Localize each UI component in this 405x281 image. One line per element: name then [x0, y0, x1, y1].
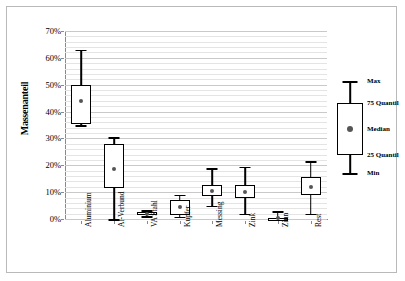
box-plot-aluminium	[65, 31, 98, 219]
whisker-cap-max	[76, 50, 87, 52]
y-axis-tick-labels: 0%10%20%30%40%50%60%70%	[7, 31, 61, 219]
box-plot-figure: Massenanteil 0%10%20%30%40%50%60%70% Alu…	[7, 7, 398, 274]
legend-label-q25: 25 Quantil	[367, 151, 399, 159]
x-axis-label-al-verbund: Al-Verbund	[117, 192, 126, 227]
x-axis-tick-mark	[114, 221, 115, 224]
y-axis-tick-label: 20%	[15, 161, 61, 169]
whisker-cap-max	[305, 161, 316, 163]
legend-box-glyph	[337, 77, 363, 177]
legend-label-med: Median	[367, 125, 390, 133]
legend-cap-max	[343, 81, 358, 83]
y-axis-tick-mark	[61, 165, 64, 166]
legend-cap-min	[343, 173, 358, 175]
x-axis-label-zinn: Zinn	[281, 213, 290, 227]
y-axis-tick-label: 30%	[15, 134, 61, 142]
x-axis-label-kupfer: Kupfer	[183, 206, 192, 227]
y-axis-tick-label: 50%	[15, 81, 61, 89]
x-axis-tick-mark	[245, 221, 246, 224]
whisker-cap-max	[109, 137, 120, 139]
chart-legend: Max75 QuantilMedian25 QuantilMin	[337, 67, 397, 187]
quartile-box	[104, 144, 124, 188]
whisker-cap-min	[76, 125, 87, 127]
median-marker	[210, 189, 214, 193]
x-axis-tick-mark	[212, 221, 213, 224]
y-axis-tick-mark	[61, 85, 64, 86]
quartile-box	[71, 85, 91, 124]
whisker-cap-max	[174, 195, 185, 197]
legend-label-min: Min	[367, 169, 379, 177]
median-marker	[79, 99, 83, 103]
median-marker	[112, 167, 116, 171]
legend-label-q75: 75 Quantil	[367, 99, 399, 107]
median-marker	[145, 212, 149, 216]
box-plot-kupfer	[163, 31, 196, 219]
y-axis-tick-mark	[61, 219, 64, 220]
y-axis-tick-mark	[61, 138, 64, 139]
x-axis-category-labels: AluminiumAl-VerbundVA StahlKupferMessing…	[65, 221, 327, 277]
y-axis-tick-mark	[61, 112, 64, 113]
median-marker	[309, 185, 313, 189]
y-axis-tick-label: 10%	[15, 188, 61, 196]
page-frame: Massenanteil 0%10%20%30%40%50%60%70% Alu…	[6, 6, 397, 273]
x-axis-label-va-stahl: VA Stahl	[150, 200, 159, 227]
legend-median-marker	[347, 126, 353, 132]
median-marker	[243, 190, 247, 194]
y-axis-tick-mark	[61, 31, 64, 32]
whisker-cap-max	[207, 168, 218, 170]
x-axis-tick-mark	[147, 221, 148, 224]
box-plot-rest	[294, 31, 327, 219]
x-axis-label-aluminium: Aluminium	[84, 192, 93, 227]
box-plot-va-stahl	[131, 31, 164, 219]
plot-area	[65, 31, 327, 219]
x-axis-tick-mark	[278, 221, 279, 224]
x-axis-tick-mark	[311, 221, 312, 224]
legend-label-max: Max	[367, 77, 381, 85]
y-axis-tick-mark	[61, 58, 64, 59]
x-axis-label-zink: Zink	[248, 213, 257, 227]
y-axis-tick-label: 60%	[15, 54, 61, 62]
box-plot-zinn	[262, 31, 295, 219]
median-marker	[276, 216, 280, 220]
x-axis-label-rest: Rest	[314, 214, 323, 227]
y-axis-tick-mark	[61, 192, 64, 193]
whisker-cap-max	[240, 167, 251, 169]
box-plot-messing	[196, 31, 229, 219]
y-axis-tick-label: 40%	[15, 108, 61, 116]
x-axis-label-messing: Messing	[215, 202, 224, 227]
box-plot-zink	[229, 31, 262, 219]
median-marker	[178, 205, 182, 209]
x-axis-tick-mark	[81, 221, 82, 224]
y-axis-tick-label: 70%	[15, 27, 61, 35]
x-axis-tick-mark	[180, 221, 181, 224]
y-axis-tick-label: 0%	[15, 215, 61, 223]
